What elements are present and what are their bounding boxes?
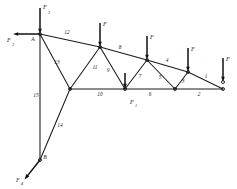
node-label-a: A [30,36,35,42]
force-arrow-f-top-5: F [221,55,230,82]
truss-diagram: F2F3FFFFF1F4 123456789101112131415 AB [0,0,237,189]
node-labels-group: AB [30,36,47,160]
member-number-label-12: 12 [64,29,70,35]
member-number-label-10: 10 [97,91,103,97]
force-label-f-top-5: F [225,55,230,62]
member-number-label-8: 8 [119,44,122,50]
truss-member-12 [40,34,100,47]
force-subscript-f-top-a: 2 [48,10,50,15]
force-label-f-bot-d: F [129,98,134,105]
force-arrow-f-top-3: F [145,33,154,60]
force-arrow-f-top-2: F [98,20,107,47]
force-label-f-top-a: F [42,3,47,10]
member-number-label-11: 11 [93,64,98,70]
force-arrow-f-left-a: F3 [6,32,40,47]
force-label-f-left-a: F [6,36,11,43]
member-number-label-9: 9 [107,67,110,73]
force-label-f-top-2: F [102,20,107,27]
force-subscript-f-bot-d: 1 [135,103,137,108]
force-arrow-f-top-a: F2 [38,3,50,34]
member-number-label-2: 2 [198,91,201,97]
member-number-label-1: 1 [205,73,208,79]
members-group [40,34,223,160]
force-label-f-top-3: F [149,33,154,40]
force-arrow-f-top-4: F [186,45,195,72]
force-label-f-top-4: F [190,45,195,52]
member-number-label-5: 5 [159,74,162,80]
member-number-label-4: 4 [166,57,169,63]
member-number-label-14: 14 [57,122,63,128]
member-number-label-7: 7 [139,73,142,79]
node-label-b: B [43,154,47,160]
member-number-label-6: 6 [149,91,152,97]
force-subscript-f-node-b: 4 [21,181,23,186]
force-arrow-f-node-b: F4 [15,160,40,186]
truss-member-14 [40,89,70,160]
member-number-label-13: 13 [54,59,60,65]
member-number-label-15: 15 [33,92,39,98]
force-subscript-f-left-a: 3 [12,42,14,47]
force-label-f-node-b: F [15,176,20,183]
truss-member-7 [125,60,147,89]
member-number-label-3: 3 [181,78,185,84]
